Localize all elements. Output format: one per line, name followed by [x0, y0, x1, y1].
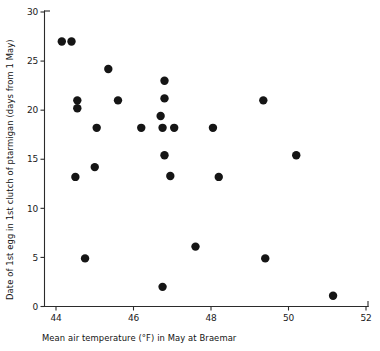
- y-tick-label: 20: [27, 105, 39, 115]
- x-axis-title: Mean air temperature (°F) in May at Brae…: [42, 333, 237, 343]
- data-point: [292, 151, 300, 159]
- x-tick-label: 48: [205, 313, 217, 323]
- scatter-plot-figure: 051015202530 4446485052 Mean air tempera…: [0, 0, 380, 351]
- data-point: [92, 124, 100, 132]
- data-point: [58, 37, 66, 45]
- data-point: [191, 242, 199, 250]
- data-point: [209, 124, 217, 132]
- y-tick-label: 5: [32, 253, 38, 263]
- data-point: [158, 283, 166, 291]
- data-point: [104, 65, 112, 73]
- data-point: [160, 151, 168, 159]
- data-point: [114, 96, 122, 104]
- data-point: [329, 292, 337, 300]
- y-tick-label: 15: [27, 154, 38, 164]
- data-point: [91, 163, 99, 171]
- data-point: [215, 173, 223, 181]
- x-tick-label: 50: [283, 313, 295, 323]
- chart-svg: 051015202530 4446485052 Mean air tempera…: [0, 0, 380, 351]
- data-point: [71, 173, 79, 181]
- chart-background: [0, 0, 380, 351]
- data-point: [67, 37, 75, 45]
- data-point: [170, 124, 178, 132]
- data-point: [160, 94, 168, 102]
- data-point: [261, 254, 269, 262]
- x-tick-label: 52: [360, 313, 371, 323]
- data-point: [73, 96, 81, 104]
- x-tick-label: 46: [128, 313, 140, 323]
- y-axis-title: Date of 1st egg in 1st clutch of ptarmig…: [5, 39, 15, 300]
- data-point: [259, 96, 267, 104]
- y-tick-label: 0: [32, 302, 38, 312]
- y-tick-label: 30: [27, 7, 39, 17]
- x-tick-label: 44: [50, 313, 62, 323]
- data-point: [156, 112, 164, 120]
- data-point: [73, 104, 81, 112]
- data-point: [166, 172, 174, 180]
- y-tick-label: 25: [27, 56, 38, 66]
- data-point: [137, 124, 145, 132]
- data-point: [160, 77, 168, 85]
- data-point: [158, 124, 166, 132]
- y-tick-label: 10: [27, 204, 39, 214]
- data-point: [81, 254, 89, 262]
